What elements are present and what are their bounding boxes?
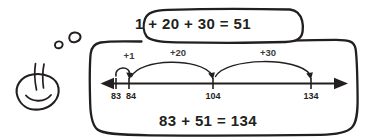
number-line-left-arrowhead [101, 78, 115, 89]
worked-example-diagram: 1 + 20 + 30 = 51 83 + 51 = 134 +1 +20 +3… [0, 0, 387, 140]
jump-label-plus-30: +30 [260, 48, 276, 58]
doodle-face-smile [26, 95, 51, 101]
jump-label-plus-1: +1 [124, 51, 135, 61]
tick-label-83: 83 [111, 92, 121, 101]
jump-label-plus-20: +20 [170, 48, 186, 58]
tick-label-104: 104 [205, 92, 220, 101]
doodle-face-hair [35, 64, 44, 91]
thought-bubble-equation: 1 + 20 + 30 = 51 [135, 16, 251, 31]
tick-label-134: 134 [303, 92, 318, 101]
doodle-face [17, 74, 59, 110]
thought-bubble-small-icon [55, 41, 63, 48]
jump-arc-plus-20 [132, 62, 215, 79]
tick-label-84: 84 [126, 92, 136, 101]
jump-arc-plus-1 [116, 68, 133, 79]
thought-bubble-medium-icon [69, 32, 80, 42]
number-line-right-arrowhead [334, 78, 348, 89]
answer-equation: 83 + 51 = 134 [159, 113, 257, 128]
jump-arc-plus-30 [216, 62, 313, 80]
